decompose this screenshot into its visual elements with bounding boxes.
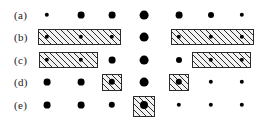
lattice-dot-row4-col6 [240, 103, 244, 107]
lattice-dot-row2-col4 [176, 57, 182, 63]
lattice-dot-row0-col0 [45, 13, 49, 17]
lattice-dot-row0-col1 [78, 12, 85, 19]
row-label-0: (a) [14, 10, 27, 21]
lattice-dot-diagram: (a)(b)(c)(d)(e) [0, 0, 258, 126]
row-label-3: (d) [14, 77, 28, 88]
lattice-dot-row2-col3 [140, 56, 149, 65]
lattice-dot-row3-col0 [44, 79, 51, 86]
lattice-dot-row4-col3 [140, 101, 148, 109]
lattice-dot-row2-col2 [109, 57, 116, 64]
lattice-dot-row4-col4 [177, 103, 181, 107]
row-label-4: (e) [14, 100, 27, 111]
row-label-1: (b) [14, 32, 28, 43]
row-label-2: (c) [14, 55, 27, 66]
lattice-dot-row0-col2 [109, 12, 116, 19]
lattice-dot-row4-col2 [109, 102, 115, 108]
lattice-dot-row0-col6 [240, 13, 244, 17]
lattice-dot-row3-col5 [209, 80, 213, 84]
lattice-dot-row0-col3 [140, 11, 149, 20]
lattice-dot-row3-col1 [78, 79, 85, 86]
lattice-dot-row4-col0 [44, 102, 51, 109]
lattice-dot-row4-col1 [78, 102, 85, 109]
lattice-dot-row0-col4 [176, 12, 183, 19]
lattice-dot-row1-col3 [140, 33, 149, 42]
lattice-dot-row4-col5 [209, 103, 213, 107]
lattice-dot-row0-col5 [208, 12, 214, 18]
lattice-dot-row3-col6 [240, 80, 244, 84]
lattice-dot-row3-col3 [140, 78, 149, 87]
